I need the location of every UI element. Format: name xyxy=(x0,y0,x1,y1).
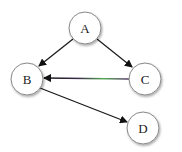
edge-a-b xyxy=(39,39,73,66)
edge-a-c xyxy=(97,39,132,67)
node-c[interactable]: C xyxy=(129,63,161,95)
edge-c-b xyxy=(44,78,129,79)
node-d-label: D xyxy=(138,121,147,136)
node-c-label: C xyxy=(141,72,150,87)
node-d[interactable]: D xyxy=(127,112,159,144)
node-b[interactable]: B xyxy=(11,63,43,95)
graph-canvas: A B C D xyxy=(0,0,182,152)
edge-b-d xyxy=(40,88,127,122)
node-a-label: A xyxy=(80,21,90,36)
node-a[interactable]: A xyxy=(69,12,101,44)
node-b-label: B xyxy=(23,72,32,87)
edges xyxy=(39,39,132,122)
